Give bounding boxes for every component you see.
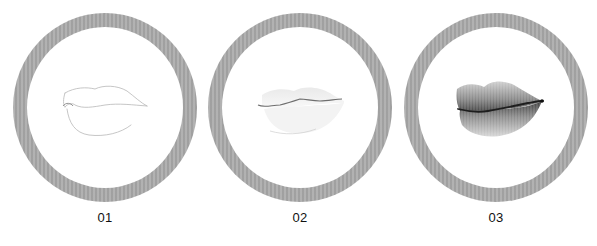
frame-ring xyxy=(13,13,197,202)
step-label: 01 xyxy=(85,211,125,225)
frame-ring xyxy=(208,13,392,202)
step-02: 02 xyxy=(208,0,408,246)
frame-ring xyxy=(404,13,588,202)
lips-light-shading-sketch xyxy=(208,13,392,202)
step-label: 03 xyxy=(476,211,516,225)
step-01: 01 xyxy=(13,0,213,246)
lips-outline-sketch xyxy=(13,13,197,202)
lips-full-shading-drawing xyxy=(404,13,588,202)
step-03: 03 xyxy=(404,0,597,246)
step-label: 02 xyxy=(280,211,320,225)
